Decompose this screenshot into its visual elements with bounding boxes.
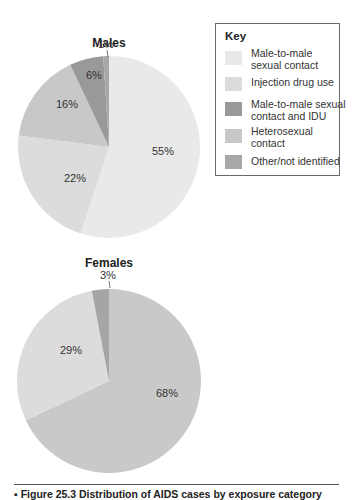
figure-caption: ▪ Figure 25.3 Distribution of AIDS cases… bbox=[14, 488, 322, 500]
legend-label: Heterosexual contact bbox=[251, 125, 321, 149]
legend-swatch bbox=[225, 102, 242, 116]
legend-swatch bbox=[225, 51, 242, 65]
legend-item-other: Other/not identified bbox=[225, 155, 351, 169]
slice-percent-label: 22% bbox=[64, 172, 86, 184]
legend-label: Male-to-male sexual contact bbox=[251, 47, 339, 71]
leader-line bbox=[109, 281, 110, 288]
legend-swatch bbox=[225, 129, 242, 143]
caption-divider bbox=[14, 484, 339, 485]
leader-line bbox=[107, 50, 108, 57]
slice-percent-label: 1% bbox=[98, 38, 114, 50]
males-pie: 55%22%16%6%1% bbox=[18, 38, 200, 238]
legend-title: Key bbox=[225, 30, 246, 42]
legend-label: Injection drug use bbox=[251, 76, 351, 88]
legend-item-male-to-male: Male-to-male sexual contact bbox=[225, 47, 339, 71]
legend: Key Male-to-male sexual contact Injectio… bbox=[215, 23, 340, 176]
legend-swatch bbox=[225, 155, 242, 169]
slice-percent-label: 68% bbox=[156, 387, 178, 399]
slice-percent-label: 16% bbox=[56, 98, 78, 110]
slice-percent-label: 3% bbox=[100, 269, 116, 281]
slice-percent-label: 55% bbox=[152, 145, 174, 157]
legend-item-msm-and-idu: Male-to-male sexual contact and IDU bbox=[225, 98, 346, 122]
females-pie: 68%29%3% bbox=[17, 269, 201, 473]
legend-item-heterosexual: Heterosexual contact bbox=[225, 125, 321, 149]
legend-item-injection-drug-use: Injection drug use bbox=[225, 76, 351, 91]
slice-percent-label: 6% bbox=[86, 69, 102, 81]
legend-swatch bbox=[225, 77, 242, 91]
legend-label: Other/not identified bbox=[251, 155, 351, 167]
slice-percent-label: 29% bbox=[60, 344, 82, 356]
legend-label: Male-to-male sexual contact and IDU bbox=[251, 98, 346, 122]
